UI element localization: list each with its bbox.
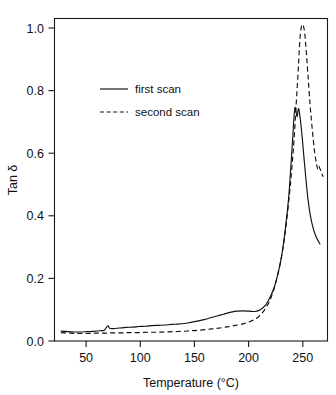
y-axis-ticks <box>49 28 55 341</box>
x-tick-label-0: 50 <box>79 351 93 365</box>
y-tick-label-0: 0.0 <box>27 335 44 349</box>
y-axis-title: Tan δ <box>6 165 20 196</box>
plot-frame <box>55 19 328 342</box>
tan-delta-line-chart: 0.0 0.2 0.4 0.6 0.8 1.0 50 100 150 200 2… <box>0 0 336 395</box>
chart-legend: first scan second scan <box>100 83 200 118</box>
x-tick-label-1: 100 <box>130 351 151 365</box>
legend-label-first-scan: first scan <box>135 83 181 95</box>
y-tick-label-2: 0.4 <box>27 209 44 223</box>
legend-label-second-scan: second scan <box>135 106 200 118</box>
x-axis-ticks <box>86 341 303 347</box>
y-tick-label-5: 1.0 <box>27 22 44 36</box>
y-tick-label-1: 0.2 <box>27 272 44 286</box>
series-first-scan <box>61 107 320 332</box>
y-tick-label-4: 0.8 <box>27 84 44 98</box>
y-tick-label-3: 0.6 <box>27 147 44 161</box>
x-tick-label-4: 250 <box>292 351 313 365</box>
series-second-scan <box>61 24 323 333</box>
chart-figure: 0.0 0.2 0.4 0.6 0.8 1.0 50 100 150 200 2… <box>0 0 336 395</box>
x-tick-label-2: 150 <box>184 351 205 365</box>
x-tick-label-3: 200 <box>238 351 259 365</box>
x-axis-title: Temperature (°C) <box>143 376 239 390</box>
